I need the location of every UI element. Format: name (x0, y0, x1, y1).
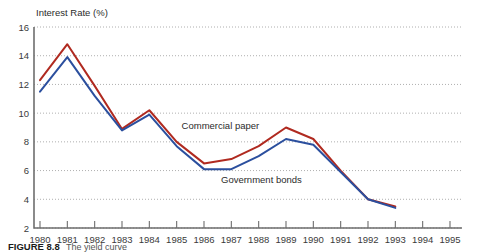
series-line-government-bonds (40, 57, 395, 208)
figure-container: 246810121416 198019811982198319841985198… (0, 0, 488, 252)
x-tick-label: 1990 (303, 234, 324, 245)
annotation-label: Commercial paper (182, 120, 260, 131)
y-tick-label: 10 (18, 108, 29, 119)
y-tick-label: 12 (18, 79, 29, 90)
y-tick-label: 4 (24, 194, 29, 205)
x-tick-label: 1986 (193, 234, 214, 245)
x-tick-label: 1991 (330, 234, 351, 245)
y-axis-tick-labels: 246810121416 (18, 22, 29, 234)
x-tick-label: 1984 (139, 234, 160, 245)
y-tick-label: 14 (18, 50, 29, 61)
y-tick-label: 6 (24, 165, 29, 176)
figure-caption-text: The yield curve (66, 242, 127, 252)
y-tick-label: 8 (24, 136, 29, 147)
x-tick-label: 1988 (248, 234, 269, 245)
y-tick-label: 2 (24, 223, 29, 234)
x-tick-label: 1985 (166, 234, 187, 245)
x-tick-label: 1992 (357, 234, 378, 245)
x-tick-label: 1987 (221, 234, 242, 245)
interest-rate-line-chart: 246810121416 198019811982198319841985198… (0, 0, 488, 252)
x-tick-label: 1993 (385, 234, 406, 245)
x-axis-tick-marks (40, 221, 450, 228)
y-tick-label: 16 (18, 22, 29, 33)
x-tick-label: 1989 (275, 234, 296, 245)
x-tick-label: 1995 (439, 234, 460, 245)
x-tick-label: 1994 (412, 234, 433, 245)
y-axis-title: Interest Rate (%) (36, 7, 108, 18)
figure-caption-number: FIGURE 8.8 (8, 241, 60, 252)
annotation-label: Government bonds (221, 174, 302, 185)
